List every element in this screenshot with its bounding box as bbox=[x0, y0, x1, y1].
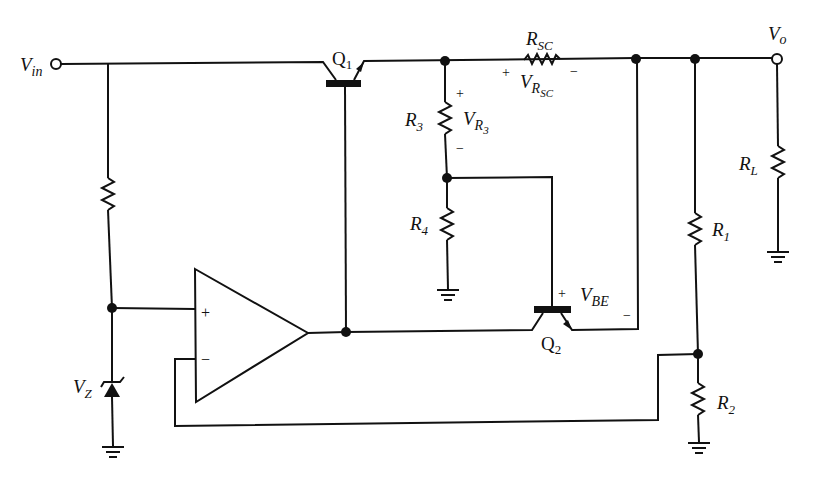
vrsc-plus: + bbox=[502, 65, 510, 80]
q1-base-bar bbox=[326, 80, 361, 87]
r3-label: R3 bbox=[404, 109, 424, 134]
top-rail-wire bbox=[61, 58, 777, 80]
r1-resistor bbox=[689, 213, 701, 245]
q2-emitter-wire bbox=[561, 59, 638, 330]
r3-r4-divider: R3 + − VR3 R4 bbox=[404, 56, 552, 306]
vin-terminal: Vin bbox=[20, 54, 61, 79]
r3-resistor bbox=[439, 102, 451, 134]
vrsc-label: VRSC bbox=[520, 71, 554, 99]
opamp-plus-label: + bbox=[201, 304, 210, 321]
zener-branch: VZ bbox=[73, 64, 195, 457]
schematic-svg: Vin Vo Q1 VZ + − bbox=[0, 0, 813, 483]
q2-base-bar bbox=[534, 306, 571, 313]
q2-label: Q2 bbox=[541, 333, 561, 357]
r2-label: R2 bbox=[716, 392, 736, 417]
load-branch: RL bbox=[738, 64, 789, 262]
ground-icon bbox=[102, 447, 124, 457]
circuit-diagram: Vin Vo Q1 VZ + − bbox=[0, 0, 813, 483]
q1-emitter-arrow-icon bbox=[356, 62, 364, 72]
q1-base-wire bbox=[345, 87, 346, 332]
q2-base-wire bbox=[447, 177, 552, 306]
feedback-wire bbox=[175, 354, 698, 426]
ground-icon bbox=[688, 443, 710, 453]
node-rsc-out bbox=[631, 54, 641, 64]
rl-resistor bbox=[772, 146, 784, 178]
rsc-resistor-group: RSC + − VRSC bbox=[502, 28, 578, 99]
r4-label: R4 bbox=[409, 213, 429, 238]
opamp-minus-label: − bbox=[201, 351, 210, 368]
ground-icon bbox=[767, 252, 789, 262]
r1-r2-divider: R1 R2 bbox=[688, 54, 736, 453]
vr3-plus: + bbox=[456, 86, 464, 101]
vrsc-minus: − bbox=[570, 64, 578, 79]
rl-label: RL bbox=[738, 153, 758, 178]
r4-resistor bbox=[441, 208, 453, 240]
q1-transistor: Q1 bbox=[326, 48, 364, 332]
vbe-minus: − bbox=[623, 308, 631, 323]
q2-transistor: Q2 + − VBE bbox=[534, 54, 641, 357]
zener-diode-icon bbox=[104, 383, 120, 397]
q2-emitter-arrow-icon bbox=[563, 320, 572, 330]
vin-label: Vin bbox=[20, 54, 43, 79]
vbe-plus: + bbox=[558, 286, 566, 301]
vz-label: VZ bbox=[73, 376, 93, 401]
vbe-label: VBE bbox=[580, 284, 609, 309]
ground-icon bbox=[437, 290, 459, 300]
vo-label: Vo bbox=[768, 23, 787, 47]
op-amp: + − bbox=[195, 269, 543, 402]
zener-bias-resistor bbox=[102, 178, 114, 210]
q1-label: Q1 bbox=[332, 48, 352, 72]
r1-label: R1 bbox=[711, 219, 730, 244]
vr3-minus: − bbox=[456, 141, 464, 156]
rsc-label: RSC bbox=[525, 28, 553, 53]
vr3-label: VR3 bbox=[463, 108, 489, 136]
r2-resistor bbox=[692, 383, 704, 415]
